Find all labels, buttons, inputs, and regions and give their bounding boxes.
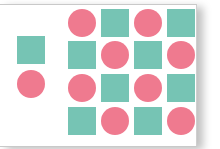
grid-circle-shape: [68, 9, 96, 37]
grid-circle-shape: [134, 74, 162, 102]
grid-circle-shape: [68, 74, 96, 102]
grid-square-shape: [68, 41, 96, 69]
grid-square-shape: [68, 107, 96, 135]
grid-square-shape: [101, 74, 129, 102]
left-circle-shape: [17, 70, 45, 98]
left-square-shape: [17, 36, 45, 64]
grid-circle-shape: [134, 9, 162, 37]
grid-square-shape: [134, 41, 162, 69]
grid-circle-shape: [167, 41, 195, 69]
grid-circle-shape: [101, 41, 129, 69]
grid-square-shape: [167, 9, 195, 37]
grid-circle-shape: [167, 107, 195, 135]
grid-circle-shape: [101, 107, 129, 135]
grid-square-shape: [167, 74, 195, 102]
grid-square-shape: [134, 107, 162, 135]
grid-square-shape: [101, 9, 129, 37]
